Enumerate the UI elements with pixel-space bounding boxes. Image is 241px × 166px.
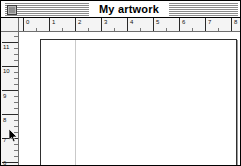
close-box-icon[interactable] bbox=[7, 5, 17, 15]
ruler-label-horizontal: 4 bbox=[130, 19, 133, 26]
ruler-tick-minor bbox=[192, 28, 193, 31]
ruler-tick-minor bbox=[14, 150, 18, 151]
ruler-label-vertical: 8 bbox=[3, 117, 6, 124]
vertical-guide-line[interactable] bbox=[75, 40, 76, 166]
ruler-tick-minor bbox=[14, 108, 18, 109]
ruler-label-horizontal: 7 bbox=[208, 19, 211, 26]
ruler-tick-major bbox=[2, 90, 18, 91]
ruler-tick-minor bbox=[166, 28, 167, 31]
ruler-label-horizontal: 2 bbox=[78, 19, 81, 26]
ruler-tick-major bbox=[231, 18, 232, 31]
ruler-label-horizontal: 6 bbox=[182, 19, 185, 26]
vertical-ruler[interactable]: 11109876 bbox=[1, 32, 19, 166]
ruler-tick-minor bbox=[88, 28, 89, 31]
ruler-tick-minor bbox=[14, 84, 18, 85]
ruler-tick-minor bbox=[36, 28, 37, 31]
ruler-tick-major bbox=[2, 42, 18, 43]
window-titlebar[interactable]: My artwork bbox=[1, 1, 241, 18]
ruler-label-vertical: 7 bbox=[3, 137, 6, 144]
ruler-tick-minor bbox=[14, 120, 18, 121]
ruler-label-vertical: 11 bbox=[3, 44, 9, 51]
ruler-tick-minor bbox=[14, 144, 18, 145]
ruler-tick-major bbox=[23, 18, 24, 31]
horizontal-ruler[interactable]: 012345678 bbox=[19, 18, 241, 32]
ruler-label-horizontal: 8 bbox=[234, 19, 237, 26]
ruler-label-horizontal: 5 bbox=[156, 19, 159, 26]
ruler-label-horizontal: 1 bbox=[52, 19, 55, 26]
ruler-tick-major bbox=[75, 18, 76, 31]
ruler-tick-major bbox=[49, 18, 50, 31]
ruler-label-vertical: 9 bbox=[3, 93, 6, 100]
ruler-tick-minor bbox=[14, 78, 18, 79]
ruler-tick-minor bbox=[14, 156, 18, 157]
ruler-tick-major bbox=[2, 114, 18, 115]
ruler-tick-minor bbox=[218, 28, 219, 31]
ruler-tick-minor bbox=[14, 132, 18, 133]
ruler-tick-major bbox=[153, 18, 154, 31]
ruler-tick-minor bbox=[14, 126, 18, 127]
ruler-tick-minor bbox=[14, 36, 18, 37]
ruler-corner[interactable] bbox=[1, 18, 19, 32]
ruler-label-horizontal: 0 bbox=[26, 19, 29, 26]
ruler-tick-minor bbox=[14, 48, 18, 49]
titlebar-stripes-right bbox=[169, 3, 238, 16]
ruler-tick-minor bbox=[62, 28, 63, 31]
titlebar-stripes-left bbox=[5, 3, 89, 16]
ruler-tick-major bbox=[127, 18, 128, 31]
ruler-tick-major bbox=[205, 18, 206, 31]
ruler-tick-minor bbox=[14, 96, 18, 97]
ruler-tick-minor bbox=[14, 72, 18, 73]
ruler-tick-major bbox=[2, 66, 18, 67]
artboard-page[interactable] bbox=[40, 39, 237, 166]
ruler-tick-major bbox=[101, 18, 102, 31]
window-title: My artwork bbox=[89, 2, 169, 17]
ruler-label-vertical: 6 bbox=[3, 160, 6, 166]
ruler-tick-minor bbox=[140, 28, 141, 31]
ruler-tick-major bbox=[179, 18, 180, 31]
ruler-tick-minor bbox=[14, 54, 18, 55]
ruler-label-vertical: 10 bbox=[3, 68, 10, 75]
ruler-tick-minor bbox=[14, 60, 18, 61]
ruler-tick-minor bbox=[14, 102, 18, 103]
ruler-tick-minor bbox=[114, 28, 115, 31]
ruler-label-horizontal: 3 bbox=[104, 19, 107, 26]
drawing-canvas[interactable] bbox=[19, 32, 241, 166]
application-window: My artwork 012345678 11109876 bbox=[0, 0, 241, 166]
